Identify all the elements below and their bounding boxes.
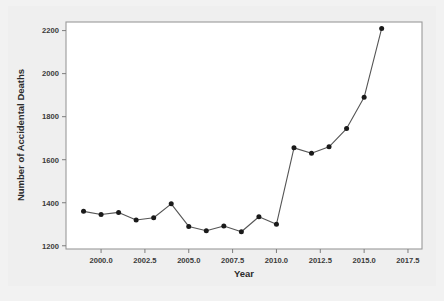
- data-point-marker: [379, 26, 384, 31]
- data-point-marker: [362, 95, 367, 100]
- y-axis-tick-labels: 120014001600180020002200: [42, 26, 59, 250]
- y-axis-title: Number of Accidental Deaths: [15, 69, 26, 201]
- y-tick-label: 1600: [42, 156, 59, 165]
- data-point-marker: [151, 215, 156, 220]
- y-tick-label: 2000: [42, 69, 59, 78]
- y-tick-label: 1400: [42, 199, 59, 208]
- chart-figure: 120014001600180020002200 2000.02002.5200…: [0, 0, 444, 301]
- y-tick-label: 2200: [42, 26, 59, 35]
- data-point-marker: [134, 217, 139, 222]
- y-tick-label: 1200: [42, 242, 59, 251]
- data-point-marker: [256, 214, 261, 219]
- x-tick-label: 2002.5: [133, 256, 157, 265]
- data-point-marker: [309, 151, 314, 156]
- data-point-marker: [169, 201, 174, 206]
- data-point-marker: [221, 223, 226, 228]
- x-tick-label: 2015.0: [353, 256, 376, 265]
- data-point-marker: [116, 210, 121, 215]
- y-axis-ticks: [62, 31, 66, 246]
- x-axis-tick-labels: 2000.02002.52005.02007.52010.02012.52015…: [89, 256, 420, 265]
- x-tick-label: 2007.5: [221, 256, 245, 265]
- x-tick-label: 2010.0: [265, 256, 288, 265]
- data-point-marker: [204, 228, 209, 233]
- data-point-marker: [239, 229, 244, 234]
- chart-canvas: 120014001600180020002200 2000.02002.5200…: [8, 6, 436, 286]
- x-tick-label: 2012.5: [309, 256, 333, 265]
- plot-area-background: [66, 22, 422, 249]
- y-tick-label: 1800: [42, 112, 59, 121]
- data-point-marker: [81, 209, 86, 214]
- data-point-marker: [327, 144, 332, 149]
- data-point-marker: [291, 145, 296, 150]
- x-tick-label: 2000.0: [89, 256, 112, 265]
- x-tick-label: 2005.0: [177, 256, 200, 265]
- x-axis-title: Year: [234, 268, 254, 279]
- data-point-marker: [186, 224, 191, 229]
- x-tick-label: 2017.5: [396, 256, 420, 265]
- x-axis-ticks: [101, 249, 408, 253]
- data-point-marker: [344, 126, 349, 131]
- data-point-marker: [99, 212, 104, 217]
- line-chart-plot: 120014001600180020002200 2000.02002.5200…: [8, 6, 436, 286]
- data-point-marker: [274, 222, 279, 227]
